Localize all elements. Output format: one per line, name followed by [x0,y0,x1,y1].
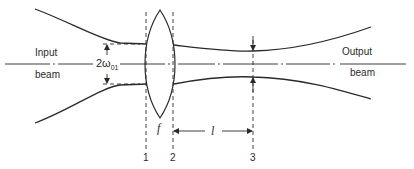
input-beam-label: beam [35,70,60,80]
plane-2-label: 2 [170,153,176,163]
output-beam-lower-edge [174,77,371,99]
beam-diagram [0,0,414,169]
input-label: Input [35,48,57,58]
plane-1-label: 1 [143,153,149,163]
distance-label: l [211,125,214,137]
output-label: Output [342,47,372,57]
waist-label: 2ω01 [95,58,120,71]
focal-length-label: f [157,122,160,134]
waist-subscript: 01 [111,64,119,71]
input-beam-lower-edge [35,84,147,123]
output-beam-label: beam [350,68,375,78]
input-beam-upper-edge [35,9,147,44]
plane-3-label: 3 [250,153,256,163]
waist-symbol: 2ω [96,57,111,69]
